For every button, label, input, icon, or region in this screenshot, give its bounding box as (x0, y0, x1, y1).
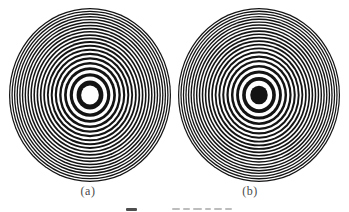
caption-remnant-mark (126, 208, 137, 211)
caption-remnant (0, 206, 349, 212)
zone-plate-a-graphic (8, 7, 172, 183)
subfigure-label-b: (b) (242, 184, 258, 199)
caption-remnant-mark (193, 208, 202, 210)
figure-canvas: (a) (b) (0, 0, 349, 212)
subfigure-label-a: (a) (81, 184, 96, 199)
zone-plate-a (8, 7, 172, 183)
caption-remnant-mark (172, 208, 180, 210)
caption-remnant-mark (205, 208, 211, 210)
caption-remnant-mark (225, 208, 232, 210)
caption-remnant-mark (183, 208, 190, 210)
zone-plate-b (177, 7, 341, 183)
zone-plate-b-graphic (177, 7, 341, 183)
caption-remnant-mark (214, 208, 222, 210)
